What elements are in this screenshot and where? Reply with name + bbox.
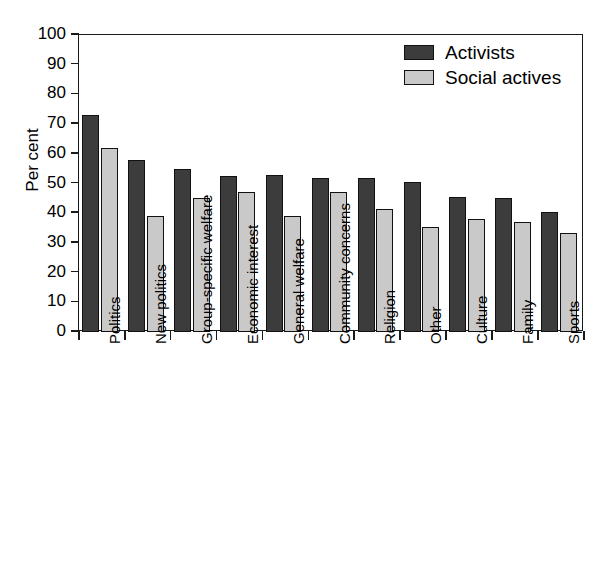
x-tick-mark [445, 331, 447, 340]
bar-activists [82, 115, 99, 332]
x-tick-label: General welfare [291, 238, 306, 344]
x-tick-mark [537, 331, 539, 340]
legend-item-social-actives: Social actives [404, 65, 579, 90]
legend-label-activists: Activists [445, 43, 515, 62]
x-tick-label: Other [428, 306, 443, 344]
x-tick-mark [308, 331, 310, 340]
x-tick-mark [124, 331, 126, 340]
y-tick-label: 50 [14, 174, 66, 191]
bar-activists [495, 198, 512, 332]
x-tick-mark [216, 331, 218, 340]
bar-activists [358, 178, 375, 332]
chart-title [0, 0, 598, 8]
y-tick-label: 30 [14, 233, 66, 250]
bar-activists [128, 160, 145, 332]
x-tick-mark [399, 331, 401, 340]
bar-activists [541, 212, 558, 332]
chart-legend: Activists Social actives [404, 40, 579, 90]
legend-item-activists: Activists [404, 40, 579, 65]
x-tick-label: Politics [107, 296, 122, 344]
x-tick-label: Family [520, 300, 535, 344]
x-tick-label: Group-specific welfare [199, 195, 214, 344]
y-tick-label: 40 [14, 203, 66, 220]
bar-activists [174, 169, 191, 332]
y-tick-label: 80 [14, 84, 66, 101]
x-tick-label: Culture [474, 296, 489, 344]
legend-swatch-social-actives [404, 70, 434, 85]
bar-activists [404, 182, 421, 332]
y-tick-label: 70 [14, 114, 66, 131]
legend-swatch-activists [404, 45, 434, 60]
x-tick-label: Religion [382, 290, 397, 344]
x-tick-label: Economic interest [245, 225, 260, 344]
x-tick-label: Community concerns [337, 203, 352, 344]
x-tick-label: New politics [153, 264, 168, 344]
x-tick-label: Sports [566, 301, 581, 344]
bar-activists [312, 178, 329, 332]
bar-chart: Per cent 1009080706050403020100 Politics… [0, 0, 598, 564]
bar-activists [220, 176, 237, 332]
bar-activists [266, 175, 283, 332]
x-tick-mark [78, 331, 80, 340]
y-tick-label: 20 [14, 263, 66, 280]
x-tick-mark [491, 331, 493, 340]
bar-activists [449, 197, 466, 332]
y-tick-label: 0 [14, 322, 66, 339]
x-tick-mark [583, 331, 585, 340]
y-tick-label: 60 [14, 144, 66, 161]
x-tick-mark [353, 331, 355, 340]
legend-label-social-actives: Social actives [445, 68, 561, 87]
y-tick-label: 100 [14, 25, 66, 42]
y-tick-label: 10 [14, 292, 66, 309]
x-tick-mark [170, 331, 172, 340]
x-tick-mark [262, 331, 264, 340]
y-tick-label: 90 [14, 55, 66, 72]
